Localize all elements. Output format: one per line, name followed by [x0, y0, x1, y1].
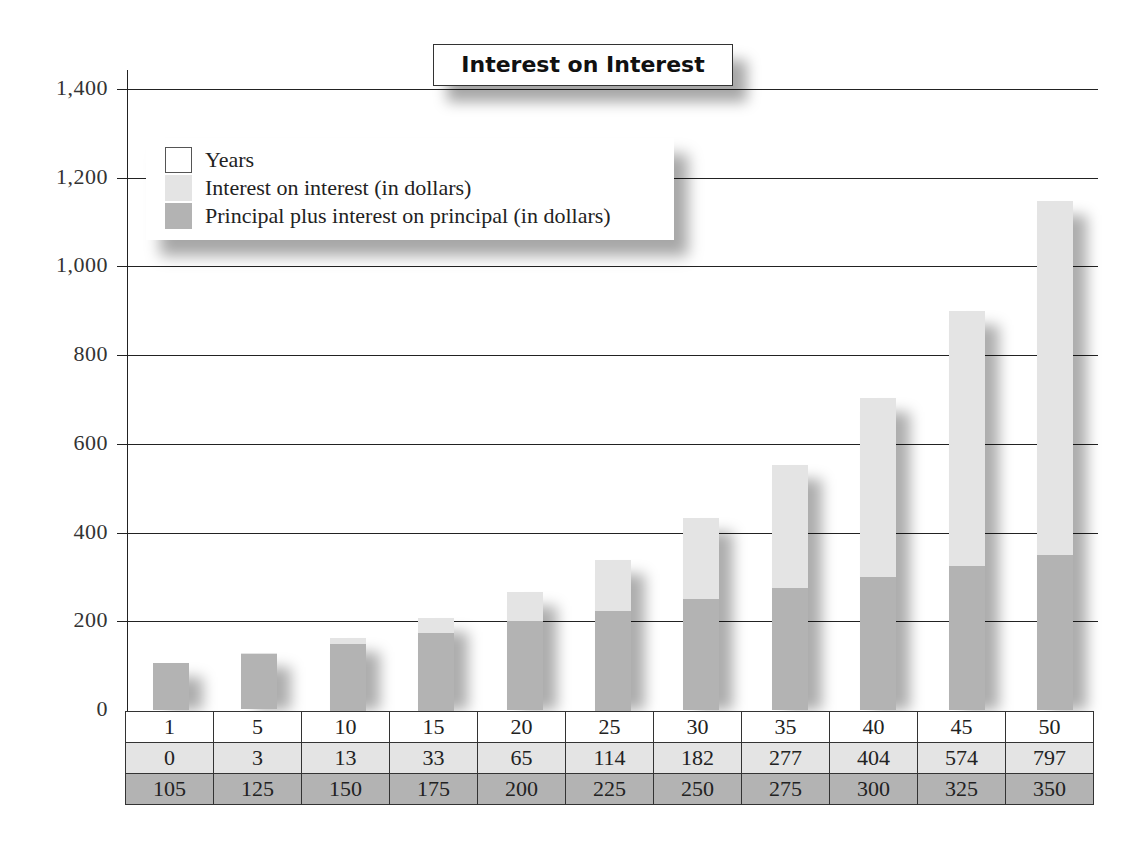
- interest-on-interest-chart: 02004006008001,0001,2001,400 Years Inter…: [0, 0, 1143, 858]
- bar-segment-principal: [418, 633, 454, 711]
- table-cell: 404: [830, 743, 918, 774]
- table-cell: 250: [654, 774, 742, 805]
- y-tick-label: 0: [97, 698, 109, 720]
- bar-year-5: [241, 653, 277, 710]
- gridline: [117, 266, 1098, 267]
- bar-segment-principal: [595, 611, 631, 711]
- y-tick-label: 200: [74, 609, 109, 631]
- table-cell: 25: [566, 712, 654, 743]
- table-cell: 45: [918, 712, 1006, 743]
- bar-year-40: [860, 398, 896, 710]
- table-cell: 30: [654, 712, 742, 743]
- table-cell: 225: [566, 774, 654, 805]
- table-cell: 0: [126, 743, 214, 774]
- y-tick-label: 400: [74, 521, 109, 543]
- table-cell: 797: [1006, 743, 1094, 774]
- y-tick-label: 1,200: [56, 166, 108, 188]
- table-cell: 5: [214, 712, 302, 743]
- table-row-ii: 03133365114182277404574797: [126, 743, 1094, 774]
- bar-segment-interest-on-interest: [418, 618, 454, 633]
- data-table: 1510152025303540455003133365114182277404…: [125, 711, 1094, 805]
- table-cell: 40: [830, 712, 918, 743]
- table-cell: 15: [390, 712, 478, 743]
- bar-segment-principal: [241, 654, 277, 709]
- bar-year-50: [1037, 201, 1073, 710]
- bar-segment-principal: [330, 644, 366, 711]
- bar-year-45: [949, 311, 985, 710]
- bar-segment-interest-on-interest: [860, 398, 896, 577]
- legend-label: Years: [205, 147, 254, 173]
- y-tick-label: 800: [74, 343, 109, 365]
- table-cell: 125: [214, 774, 302, 805]
- bar-segment-principal: [949, 566, 985, 710]
- table-cell: 3: [214, 743, 302, 774]
- legend-label: Principal plus interest on principal (in…: [205, 203, 611, 229]
- legend-label: Interest on interest (in dollars): [205, 175, 471, 201]
- gridline: [117, 89, 1098, 90]
- table-cell: 325: [918, 774, 1006, 805]
- bar-year-10: [330, 638, 366, 710]
- bar-year-25: [595, 560, 631, 710]
- bar-segment-principal: [507, 621, 543, 710]
- table-cell: 50: [1006, 712, 1094, 743]
- table-cell: 275: [742, 774, 830, 805]
- bar-segment-interest-on-interest: [683, 518, 719, 599]
- legend-item-years: Years: [165, 146, 254, 174]
- table-row-pp: 105125150175200225250275300325350: [126, 774, 1094, 805]
- legend-item-principal: Principal plus interest on principal (in…: [165, 202, 611, 230]
- table-cell: 350: [1006, 774, 1094, 805]
- table-cell: 105: [126, 774, 214, 805]
- bar-year-35: [772, 465, 808, 710]
- bar-year-30: [683, 518, 719, 710]
- y-tick-label: 1,400: [56, 77, 108, 99]
- bar-segment-principal: [1037, 555, 1073, 710]
- bar-segment-interest-on-interest: [1037, 201, 1073, 555]
- bar-segment-principal: [683, 599, 719, 710]
- legend-swatch-years: [165, 147, 192, 173]
- table-cell: 10: [302, 712, 390, 743]
- y-axis-line: [127, 70, 128, 712]
- chart-title: Interest on Interest: [433, 44, 733, 86]
- bar-year-1: [153, 663, 189, 710]
- table-cell: 65: [478, 743, 566, 774]
- table-cell: 114: [566, 743, 654, 774]
- y-tick-label: 600: [74, 432, 109, 454]
- table-row-years: 15101520253035404550: [126, 712, 1094, 743]
- legend-swatch-principal: [165, 203, 192, 229]
- table-cell: 150: [302, 774, 390, 805]
- bar-segment-interest-on-interest: [949, 311, 985, 566]
- table-cell: 182: [654, 743, 742, 774]
- bar-segment-interest-on-interest: [595, 560, 631, 611]
- table-cell: 20: [478, 712, 566, 743]
- table-cell: 574: [918, 743, 1006, 774]
- bar-segment-principal: [860, 577, 896, 710]
- table-cell: 200: [478, 774, 566, 805]
- bar-segment-interest-on-interest: [772, 465, 808, 588]
- bar-year-20: [507, 592, 543, 710]
- legend-item-interest-on-interest: Interest on interest (in dollars): [165, 174, 471, 202]
- table-cell: 35: [742, 712, 830, 743]
- y-tick-label: 1,000: [56, 254, 108, 276]
- table-cell: 277: [742, 743, 830, 774]
- bar-year-15: [418, 618, 454, 710]
- table-cell: 13: [302, 743, 390, 774]
- table-cell: 1: [126, 712, 214, 743]
- bar-segment-interest-on-interest: [507, 592, 543, 621]
- table-cell: 33: [390, 743, 478, 774]
- legend-swatch-interest-on-interest: [165, 175, 192, 201]
- legend: Years Interest on interest (in dollars) …: [146, 138, 674, 240]
- bar-segment-principal: [772, 588, 808, 710]
- bar-segment-principal: [153, 663, 189, 710]
- table-cell: 300: [830, 774, 918, 805]
- table-cell: 175: [390, 774, 478, 805]
